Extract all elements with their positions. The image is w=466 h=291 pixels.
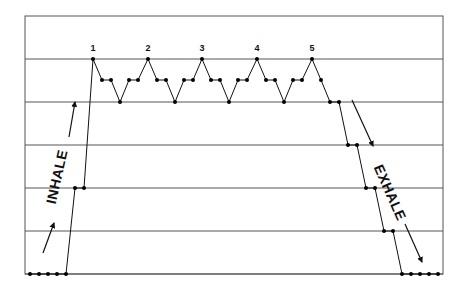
data-point-dot	[146, 57, 150, 61]
data-point-dot	[37, 272, 41, 276]
peak-number-label: 5	[309, 43, 314, 53]
data-point-dot	[118, 100, 122, 104]
data-point-dot	[109, 78, 113, 82]
peak-number-label: 1	[90, 43, 95, 53]
data-point-dot	[55, 272, 59, 276]
data-point-dot	[218, 78, 222, 82]
data-point-dot	[136, 78, 140, 82]
data-point-dot	[418, 272, 422, 276]
data-point-dot	[337, 100, 341, 104]
data-point-dot	[209, 78, 213, 82]
data-point-dot	[273, 78, 277, 82]
data-point-dot	[300, 78, 304, 82]
data-point-dot	[100, 78, 104, 82]
phase-arrows	[43, 100, 422, 262]
data-point-dot	[245, 78, 249, 82]
data-point-dot	[227, 100, 231, 104]
peak-labels: 12345	[90, 43, 314, 53]
data-point-dot	[173, 100, 177, 104]
inhale-arrow-icon	[43, 223, 54, 253]
data-point-dot	[328, 100, 332, 104]
peak-number-label: 3	[199, 43, 204, 53]
breathing-diagram: 12345 INHALE EXHALE	[0, 0, 466, 291]
data-point-dot	[373, 186, 377, 190]
inhale-arrow-icon	[69, 102, 75, 137]
data-point-dot	[82, 186, 86, 190]
data-point-dot	[319, 78, 323, 82]
data-point-dot	[28, 272, 32, 276]
inhale-label: INHALE	[43, 148, 71, 205]
data-point-dot	[255, 57, 259, 61]
data-point-dot	[346, 143, 350, 147]
data-point-dot	[155, 78, 159, 82]
peak-number-label: 4	[254, 43, 259, 53]
exhale-label: EXHALE	[371, 162, 410, 223]
data-point-dot	[400, 272, 404, 276]
data-point-dot	[91, 57, 95, 61]
data-point-dot	[364, 186, 368, 190]
exhale-arrow-icon	[352, 100, 373, 146]
data-point-dot	[291, 78, 295, 82]
data-point-dot	[382, 229, 386, 233]
data-point-dot	[427, 272, 431, 276]
data-point-dot	[264, 78, 268, 82]
data-point-dot	[391, 229, 395, 233]
data-point-dot	[310, 57, 314, 61]
data-point-dot	[64, 272, 68, 276]
data-point-dot	[182, 78, 186, 82]
data-point-dot	[191, 78, 195, 82]
data-point-dot	[436, 272, 440, 276]
data-point-dot	[46, 272, 50, 276]
data-point-dot	[73, 186, 77, 190]
data-point-dot	[127, 78, 131, 82]
data-point-dot	[282, 100, 286, 104]
peak-number-label: 2	[145, 43, 150, 53]
data-point-dot	[355, 143, 359, 147]
data-point-dot	[409, 272, 413, 276]
exhale-arrow-icon	[405, 224, 422, 262]
data-point-dot	[164, 78, 168, 82]
data-point-dot	[200, 57, 204, 61]
data-point-dot	[236, 78, 240, 82]
